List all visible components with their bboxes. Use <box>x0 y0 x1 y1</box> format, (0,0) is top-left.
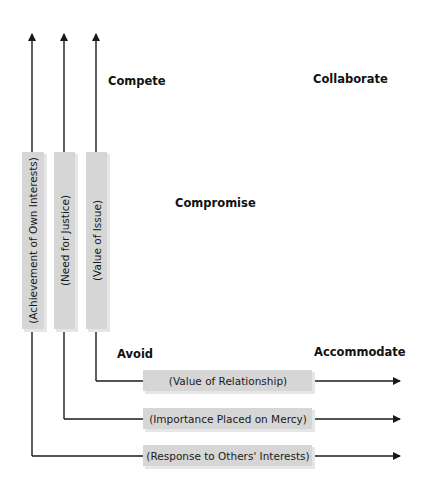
horizontal-label-box-3: (Response to Others' Interests) <box>143 445 315 469</box>
horizontal-label-others-interests: (Response to Others' Interests) <box>146 450 309 462</box>
mode-label-collaborate: Collaborate <box>313 72 388 86</box>
axis-pair-middle <box>64 34 400 419</box>
horizontal-label-box-2: (Importance Placed on Mercy) <box>143 408 315 432</box>
vertical-label-box-3: (Value of Issue) <box>86 152 110 332</box>
horizontal-label-mercy: (Importance Placed on Mercy) <box>149 413 307 425</box>
mode-label-avoid: Avoid <box>117 347 153 361</box>
vertical-label-achievement: (Achievement of Own Interests) <box>27 157 39 324</box>
horizontal-label-relationship: (Value of Relationship) <box>169 375 287 387</box>
mode-label-compete: Compete <box>108 74 166 88</box>
vertical-label-box-2: (Need for Justice) <box>54 152 78 332</box>
vertical-label-justice: (Need for Justice) <box>59 195 71 286</box>
mode-label-accommodate: Accommodate <box>314 345 406 359</box>
vertical-label-box-1: (Achievement of Own Interests) <box>22 152 47 332</box>
horizontal-label-box-1: (Value of Relationship) <box>143 370 315 394</box>
vertical-label-issue: (Value of Issue) <box>91 200 103 281</box>
mode-label-compromise: Compromise <box>175 196 256 210</box>
